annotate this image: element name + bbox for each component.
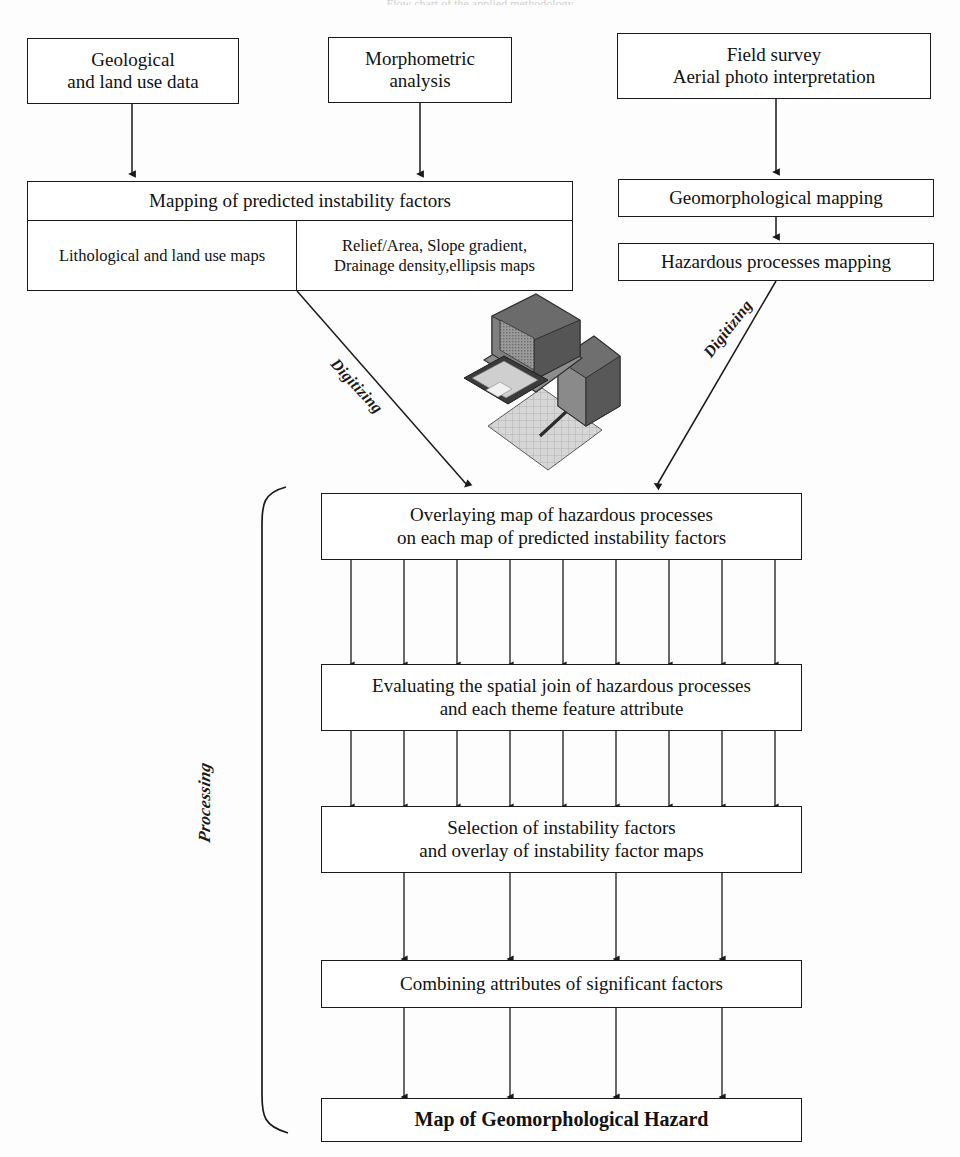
cell-morphometric-line-2: Drainage density,ellipsis maps <box>334 256 535 276</box>
node-map-of-geomorphological-hazard[interactable]: Map of Geomorphological Hazard <box>321 1098 802 1142</box>
arrow-bundle-1 <box>351 560 775 665</box>
node-selection-instability-factors[interactable]: Selection of instability factors and ove… <box>321 806 802 873</box>
node-field-survey-line-2: Aerial photo interpretation <box>624 66 924 88</box>
cell-morphometric-maps[interactable]: Relief/Area, Slope gradient, Drainage de… <box>297 221 572 290</box>
node-geological-data[interactable]: Geological and land use data <box>27 38 239 104</box>
node-evaluating-line-2: and each theme feature attribute <box>328 698 795 720</box>
node-geomorphological-mapping-label: Geomorphological mapping <box>625 187 927 209</box>
edge-label-digitizing-left: Digitizing <box>327 355 386 417</box>
node-mapping-predicted-instability-factors[interactable]: Mapping of predicted instability factors… <box>27 181 573 291</box>
arrow-bundle-2 <box>351 730 775 807</box>
arrow-bundle-3 <box>404 872 722 959</box>
cut-off-title-text: Flow chart of the applied methodology <box>0 0 960 5</box>
cell-lithological-line-1: Lithological and land use maps <box>59 246 265 266</box>
node-hazardous-processes-mapping-label: Hazardous processes mapping <box>625 251 927 273</box>
node-evaluating-line-1: Evaluating the spatial join of hazardous… <box>328 675 795 697</box>
flowchart-canvas: Flow chart of the applied methodology <box>0 0 960 1157</box>
node-hazardous-processes-mapping[interactable]: Hazardous processes mapping <box>618 243 934 281</box>
node-overlaying-line-1: Overlaying map of hazardous processes <box>328 504 795 526</box>
node-overlaying-line-2: on each map of predicted instability fac… <box>328 527 795 549</box>
cell-morphometric-line-1: Relief/Area, Slope gradient, <box>334 236 535 256</box>
cell-lithological-maps[interactable]: Lithological and land use maps <box>28 221 297 290</box>
node-morphometric-line-2: analysis <box>335 70 505 92</box>
mapping-block-cells: Lithological and land use maps Relief/Ar… <box>28 221 572 290</box>
node-geological-line-1: Geological <box>34 49 232 71</box>
computer-workstation-icon <box>464 294 620 470</box>
node-evaluating-spatial-join[interactable]: Evaluating the spatial join of hazardous… <box>321 664 802 731</box>
node-geological-line-2: and land use data <box>34 71 232 93</box>
node-combining-label: Combining attributes of significant fact… <box>328 973 795 995</box>
mapping-block-header: Mapping of predicted instability factors <box>28 182 572 221</box>
edge-label-digitizing-right: Digitizing <box>700 296 756 361</box>
node-field-survey[interactable]: Field survey Aerial photo interpretation <box>617 33 931 99</box>
arrow-bundle-4 <box>404 1008 722 1097</box>
node-morphometric-line-1: Morphometric <box>335 48 505 70</box>
group-label-processing: Processing <box>195 761 215 845</box>
processing-bracket <box>262 487 288 1133</box>
node-selection-line-2: and overlay of instability factor maps <box>328 840 795 862</box>
node-field-survey-line-1: Field survey <box>624 44 924 66</box>
node-selection-line-1: Selection of instability factors <box>328 817 795 839</box>
node-overlaying-map[interactable]: Overlaying map of hazardous processes on… <box>321 493 802 560</box>
node-geomorphological-mapping[interactable]: Geomorphological mapping <box>618 179 934 217</box>
node-result-label: Map of Geomorphological Hazard <box>328 1108 795 1132</box>
node-morphometric-analysis[interactable]: Morphometric analysis <box>328 37 512 103</box>
node-combining-attributes[interactable]: Combining attributes of significant fact… <box>321 960 802 1008</box>
